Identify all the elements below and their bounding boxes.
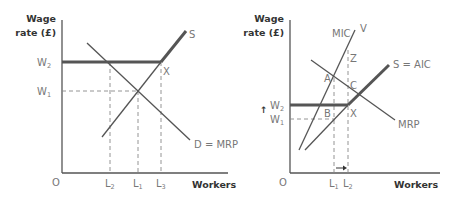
left-origin: O: [52, 177, 60, 188]
left-point-x: X: [163, 66, 170, 77]
right-mic-curve: [299, 30, 355, 150]
right-y-title-2: rate (£): [243, 27, 284, 38]
right-wage-up-arrow-icon: ↑: [260, 105, 268, 115]
right-mrp-label: MRP: [398, 119, 420, 130]
right-point-z: Z: [350, 53, 357, 64]
right-y-title-1: Wage: [254, 13, 284, 24]
left-y-title-1: Wage: [26, 13, 56, 24]
right-w2-label: W2: [270, 100, 284, 113]
left-l3-label: L3: [156, 178, 166, 191]
right-diagram: Wage rate (£) ↑ W2 W1 O L1 L2 Workers MI…: [243, 13, 440, 191]
left-demand-curve: [87, 43, 190, 140]
right-l1-label: L1: [329, 178, 339, 191]
left-x-title: Workers: [192, 179, 237, 190]
left-demand-label: D = MRP: [194, 139, 238, 150]
left-y-title-2: rate (£): [15, 27, 56, 38]
right-point-a: A: [324, 73, 331, 84]
right-x-title: Workers: [394, 179, 439, 190]
left-supply-curve: [102, 62, 161, 137]
right-origin: O: [279, 177, 287, 188]
right-v-label: V: [360, 23, 367, 34]
left-l2-label: L2: [105, 178, 115, 191]
left-w1-label: W1: [37, 86, 51, 99]
left-diagram: Wage rate (£) W2 W1 O L2 L1 L3 Workers S…: [15, 13, 238, 191]
right-point-b: B: [324, 108, 331, 119]
left-l1-label: L1: [133, 178, 143, 191]
diagram-canvas: Wage rate (£) W2 W1 O L2 L1 L3 Workers S…: [0, 0, 454, 203]
right-arrow-head-icon: [343, 166, 347, 171]
right-point-x: X: [350, 108, 357, 119]
left-supply-label: S: [189, 29, 195, 40]
right-mic-label: MIC: [332, 28, 351, 39]
right-l2-label: L2: [343, 178, 353, 191]
left-supply-bold: [161, 31, 186, 62]
left-w2-label: W2: [37, 57, 51, 70]
right-supply-label: S = AIC: [393, 59, 431, 70]
right-point-c: C: [350, 80, 357, 91]
right-w1-label: W1: [270, 114, 284, 127]
